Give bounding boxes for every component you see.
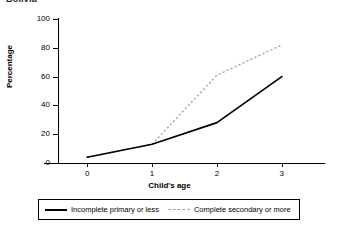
x-tick [282,163,283,167]
y-axis-title: Percentage [5,32,14,102]
chart-title: Bolivia [6,0,37,2]
x-tick [217,163,218,167]
series-line-incomplete-primary-or-less [87,77,282,158]
line-chart: Bolivia 020406080100 0123 Percentage Chi… [0,0,339,229]
chart-legend: Incomplete primary or less Complete seco… [38,199,300,220]
x-tick [152,163,153,167]
legend-item-complete-secondary-or-more: Complete secondary or more [168,205,291,214]
legend-swatch-dashed-icon [168,209,190,210]
y-tick-label: 20 [24,130,50,138]
series-line-complete-secondary-or-more [87,45,282,157]
x-tick [87,163,88,167]
y-tick-label: 60 [24,73,50,81]
legend-swatch-solid-icon [45,209,67,211]
y-tick [53,163,58,164]
x-tick-label: 3 [267,169,297,178]
legend-item-incomplete-primary-or-less: Incomplete primary or less [45,205,159,214]
y-tick-label: 40 [24,101,50,109]
legend-label: Incomplete primary or less [71,205,159,214]
y-tick-label: 80 [24,44,50,52]
x-axis-title: Child's age [0,181,339,190]
x-tick-label: 0 [72,169,102,178]
legend-label: Complete secondary or more [194,205,291,214]
x-tick-label: 1 [137,169,167,178]
y-tick-label: 100 [24,15,50,23]
plot-area [58,19,311,163]
x-tick-label: 2 [202,169,232,178]
y-tick-label: 0 [24,159,50,167]
x-axis-line [44,163,325,164]
